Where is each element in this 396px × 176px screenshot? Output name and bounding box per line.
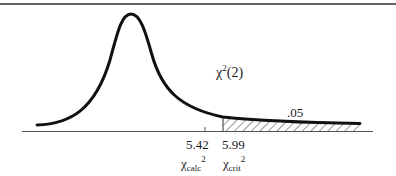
crit-sub: crit (229, 163, 241, 173)
calc-sub: calc (187, 163, 201, 173)
crit-value-label: 5.99 (222, 138, 245, 151)
calc-sup: 2 (201, 154, 206, 164)
dist-df: (2) (227, 65, 243, 80)
distribution-label: χ2(2) (216, 64, 243, 80)
area-label: .05 (287, 106, 303, 119)
density-curve (37, 14, 360, 125)
calc-value-label: 5.42 (186, 138, 209, 151)
crit-sup: 2 (241, 154, 246, 164)
calc-symbol-label: χcalc2 (181, 155, 206, 173)
crit-symbol-label: χcrit2 (223, 155, 245, 173)
